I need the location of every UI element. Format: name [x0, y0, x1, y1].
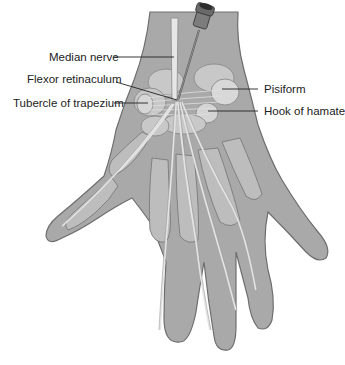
label-tubercle-of-trapezium: Tubercle of trapezium: [13, 97, 124, 110]
median-nerve: [171, 18, 178, 100]
label-flexor-retinaculum: Flexor retinaculum: [27, 73, 122, 86]
label-pisiform: Pisiform: [264, 83, 306, 96]
label-median-nerve: Median nerve: [49, 51, 119, 64]
label-hook-of-hamate: Hook of hamate: [264, 105, 345, 118]
